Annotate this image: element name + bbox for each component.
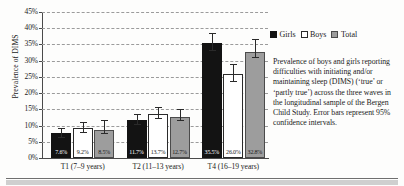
x-axis-line bbox=[42, 158, 269, 159]
error-bar-cap-upper bbox=[209, 33, 216, 34]
error-bar bbox=[212, 34, 213, 51]
error-bar-cap-lower bbox=[134, 124, 141, 125]
legend-item-total: Total bbox=[331, 30, 357, 39]
bar-value-label: 12.7% bbox=[171, 149, 189, 156]
error-bar-cap-upper bbox=[155, 107, 162, 108]
error-bar-cap-lower bbox=[230, 81, 237, 82]
bar-value-label: 35.5% bbox=[203, 149, 221, 156]
bar-value-label: 13.7% bbox=[149, 149, 167, 156]
error-bar-cap-lower bbox=[80, 132, 87, 133]
bar-total-2: 12.7% bbox=[170, 117, 190, 158]
y-axis-tick-label: 0% bbox=[10, 154, 38, 162]
legend-label: Boys bbox=[310, 30, 326, 39]
bar-girls-3: 35.5% bbox=[202, 43, 222, 158]
y-axis-tick-label: 15% bbox=[10, 105, 38, 113]
gridline bbox=[42, 61, 268, 62]
y-axis-tick-label: 30% bbox=[10, 57, 38, 65]
error-bar-cap-lower bbox=[177, 120, 184, 121]
error-bar-cap-upper bbox=[58, 128, 65, 129]
error-bar-cap-upper bbox=[230, 64, 237, 65]
legend-item-girls: Girls bbox=[270, 30, 296, 39]
legend-swatch-total-icon bbox=[331, 31, 338, 38]
bar-value-label: 11.7% bbox=[128, 149, 146, 156]
figure-panel: Prevalence of DIMS 0%5%10%15%20%25%30%35… bbox=[0, 0, 404, 186]
y-axis-tick-label: 40% bbox=[10, 24, 38, 32]
error-bar bbox=[255, 40, 256, 58]
gridline bbox=[42, 44, 268, 45]
legend-swatch-girls-icon bbox=[270, 31, 277, 38]
error-bar-cap-lower bbox=[252, 57, 259, 58]
error-bar-cap-upper bbox=[134, 114, 141, 115]
y-axis-tick-label: 35% bbox=[10, 40, 38, 48]
error-bar-cap-lower bbox=[155, 118, 162, 119]
y-axis-tick-label: 20% bbox=[10, 89, 38, 97]
y-axis-tick-label: 10% bbox=[10, 122, 38, 130]
bar-value-label: 8.5% bbox=[95, 149, 113, 156]
legend-label: Girls bbox=[280, 30, 296, 39]
bar-value-label: 32.8% bbox=[246, 149, 264, 156]
plot-area: 7.6%9.2%8.5%11.7%13.7%12.7%35.5%26.0%32.… bbox=[42, 12, 268, 158]
error-bar-cap-lower bbox=[209, 50, 216, 51]
bar-value-label: 26.0% bbox=[224, 149, 242, 156]
error-bar-cap-lower bbox=[101, 133, 108, 134]
error-bar bbox=[233, 65, 234, 82]
bar-boys-3: 26.0% bbox=[223, 74, 243, 158]
y-axis-tick-label: 45% bbox=[10, 8, 38, 16]
gridline bbox=[42, 28, 268, 29]
error-bar-cap-lower bbox=[58, 137, 65, 138]
footer-band bbox=[6, 180, 398, 185]
y-axis-tick-label: 25% bbox=[10, 73, 38, 81]
footer-rule bbox=[6, 178, 398, 179]
y-axis-tick-label: 5% bbox=[10, 138, 38, 146]
bar-girls-2: 11.7% bbox=[127, 120, 147, 158]
chart-legend: GirlsBoysTotal bbox=[270, 30, 357, 39]
bar-value-label: 7.6% bbox=[52, 149, 70, 156]
legend-swatch-boys-icon bbox=[301, 31, 308, 38]
error-bar-cap-upper bbox=[177, 109, 184, 110]
error-bar-cap-upper bbox=[101, 120, 108, 121]
bar-total-3: 32.8% bbox=[245, 52, 265, 158]
bar-boys-2: 13.7% bbox=[148, 114, 168, 158]
bar-total-1: 8.5% bbox=[94, 130, 114, 158]
error-bar-cap-upper bbox=[252, 39, 259, 40]
legend-item-boys: Boys bbox=[301, 30, 327, 39]
bar-value-label: 9.2% bbox=[74, 149, 92, 156]
gridline bbox=[42, 12, 268, 13]
error-bar-cap-upper bbox=[80, 122, 87, 123]
x-axis-group-label-3: T4 (16–19 years) bbox=[188, 162, 278, 171]
legend-label: Total bbox=[341, 30, 357, 39]
figure-caption: Prevalence of boys and girls reporting d… bbox=[273, 57, 401, 128]
